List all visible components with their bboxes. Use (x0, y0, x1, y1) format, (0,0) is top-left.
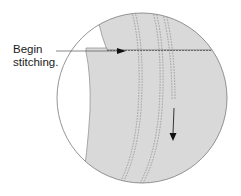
callout-label: Begin stitching. (13, 43, 58, 68)
magnified-view (80, 0, 230, 196)
upper-fabric-layer (90, 0, 230, 50)
sewing-diagram (0, 0, 241, 196)
lower-fabric-layer (80, 48, 230, 196)
callout-label-line2: stitching. (13, 56, 58, 69)
callout-label-line1: Begin (13, 43, 58, 56)
